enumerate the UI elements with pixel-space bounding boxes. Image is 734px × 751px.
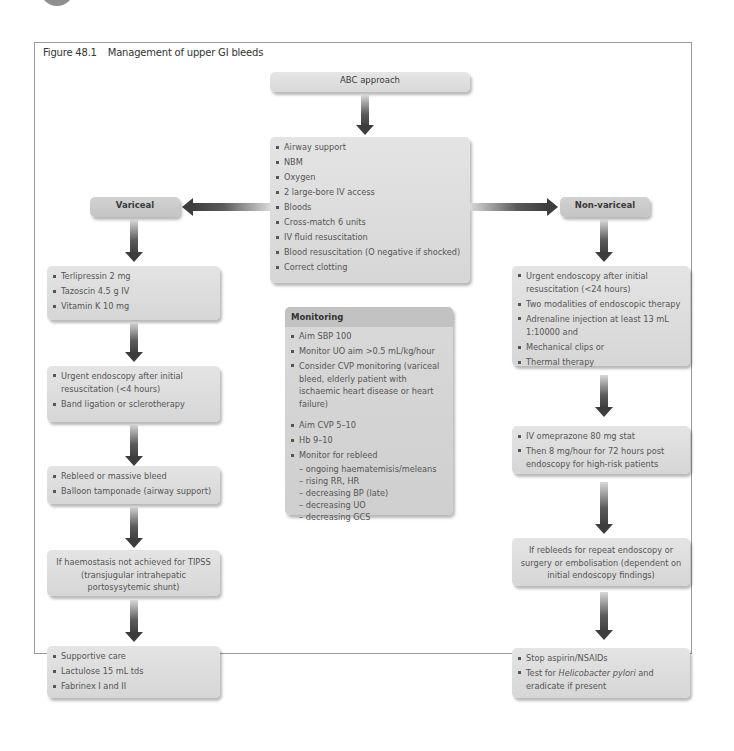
list-item: NBM (276, 155, 464, 170)
chapter-marker (40, 0, 74, 6)
non-variceal-step1-box: Urgent endoscopy after initial resuscita… (512, 266, 690, 366)
arrow-variceal-2 (127, 322, 141, 362)
arrow-non-variceal-2 (597, 375, 611, 417)
figure-caption: Figure 48.1 Management of upper GI bleed… (43, 47, 263, 58)
figure-number: Figure 48.1 (43, 47, 97, 58)
abc-items-box: Airway support NBM Oxygen 2 large-bore I… (270, 137, 470, 283)
list-item: Balloon tamponade (airway support) (53, 484, 214, 499)
list-item: IV omeprazone 80 mg stat (518, 429, 684, 444)
variceal-step1-box: Terlipressin 2 mg Tazoscin 4.5 g IV Vita… (47, 266, 220, 320)
monitoring-box: Monitoring Aim SBP 100 Monitor UO aim >0… (285, 307, 453, 515)
variceal-label: Variceal (116, 200, 154, 210)
list-item: Aim CVP 5–10 (291, 418, 447, 433)
list-item: Hb 9–10 (291, 433, 447, 448)
list-item: Urgent endoscopy after initial resuscita… (518, 269, 684, 297)
arrow-variceal-1 (127, 220, 141, 262)
tipss-text: If haemostasis not achieved for TIPSS (t… (56, 557, 210, 592)
list-item: Urgent endoscopy after initial resuscita… (53, 369, 214, 397)
list-item: Consider CVP monitoring (variceal bleed,… (291, 359, 447, 412)
list-item: Blood resuscitation (O negative if shock… (276, 245, 464, 260)
h-pylori-name: Helicobacter pylori (559, 668, 636, 678)
abc-approach-box: ABC approach (270, 72, 470, 92)
arrow-abc-down (358, 95, 372, 135)
list-item: Cross-match 6 units (276, 215, 464, 230)
abc-approach-label: ABC approach (340, 75, 400, 85)
variceal-header-box: Variceal (90, 197, 180, 217)
arrow-to-variceal (182, 200, 270, 214)
rebleed-sign: – rising RR, HR (291, 475, 447, 487)
non-variceal-label: Non-variceal (575, 200, 635, 210)
list-item: Terlipressin 2 mg (53, 269, 214, 284)
list-item: Monitor for rebleed (291, 448, 447, 463)
list-item: Supportive care (53, 649, 214, 664)
list-item: Lactulose 15 mL tds (53, 664, 214, 679)
arrow-to-non-variceal (470, 200, 558, 214)
list-item: Rebleed or massive bleed (53, 469, 214, 484)
variceal-step2-box: Urgent endoscopy after initial resuscita… (47, 366, 220, 422)
list-item: Then 8 mg/hour for 72 hours post endosco… (518, 444, 684, 472)
list-item: Tazoscin 4.5 g IV (53, 284, 214, 299)
variceal-step3-box: Rebleed or massive bleed Balloon tampona… (47, 466, 220, 504)
rebleed-sign: – ongoing haematemisis/meleans (291, 463, 447, 475)
list-item: Two modalities of endoscopic therapy (518, 297, 684, 312)
rebleed-options-text: If rebleeds for repeat endoscopy or surg… (521, 545, 681, 580)
non-variceal-step4-box: Stop aspirin/NSAIDs Test for Helicobacte… (512, 648, 690, 698)
figure-title: Management of upper GI bleeds (108, 47, 263, 58)
h-pylori-prefix: Test for (526, 668, 559, 678)
arrow-non-variceal-3 (597, 482, 611, 534)
list-item: Correct clotting (276, 260, 464, 275)
monitoring-title: Monitoring (285, 307, 453, 327)
list-item: 2 large-bore IV access (276, 185, 464, 200)
variceal-step4-box: If haemostasis not achieved for TIPSS (t… (47, 550, 220, 596)
rebleed-sign: – decreasing BP (late) (291, 487, 447, 499)
list-item: IV fluid resuscitation (276, 230, 464, 245)
list-item: Band ligation or sclerotherapy (53, 397, 214, 412)
non-variceal-header-box: Non-variceal (560, 197, 650, 217)
list-item: Thermal therapy (518, 355, 684, 370)
non-variceal-step2-box: IV omeprazone 80 mg stat Then 8 mg/hour … (512, 426, 690, 474)
list-item: Monitor UO aim >0.5 mL/kg/hour (291, 344, 447, 359)
rebleed-sign: – decreasing GCS (291, 511, 447, 523)
arrow-variceal-4 (127, 506, 141, 548)
list-item: Oxygen (276, 170, 464, 185)
abc-items-list: Airway support NBM Oxygen 2 large-bore I… (276, 140, 464, 275)
list-item: Test for Helicobacter pylori and eradica… (518, 666, 684, 694)
arrow-variceal-5 (127, 600, 141, 642)
non-variceal-step3-box: If rebleeds for repeat endoscopy or surg… (512, 538, 690, 586)
list-item: Fabrinex I and II (53, 679, 214, 694)
arrow-variceal-3 (127, 424, 141, 466)
list-item: Airway support (276, 140, 464, 155)
list-item: Bloods (276, 200, 464, 215)
list-item: Stop aspirin/NSAIDs (518, 651, 684, 666)
arrow-non-variceal-4 (597, 592, 611, 640)
list-item: Mechanical clips or (518, 340, 684, 355)
list-item: Aim SBP 100 (291, 329, 447, 344)
variceal-step5-box: Supportive care Lactulose 15 mL tds Fabr… (47, 646, 220, 698)
arrow-non-variceal-1 (597, 220, 611, 262)
rebleed-sign: – decreasing UO (291, 499, 447, 511)
list-item: Vitamin K 10 mg (53, 299, 214, 314)
list-item: Adrenaline injection at least 13 mL 1:10… (518, 312, 684, 340)
